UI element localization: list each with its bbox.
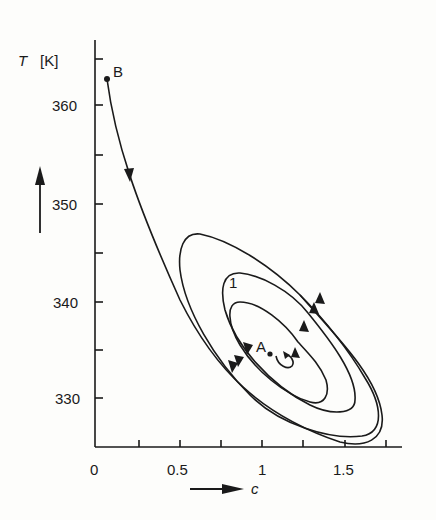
spiral-arrow-icon [283, 351, 290, 359]
y-tick-label: 330 [55, 390, 80, 407]
x-direction-arrow-icon [190, 484, 244, 494]
y-axis-unit: [K] [40, 52, 58, 69]
x-axis-label: c [251, 480, 259, 497]
point-b-label: B [113, 63, 123, 80]
y-ticks [95, 59, 103, 398]
direction-arrows [124, 168, 325, 373]
y-tick-label: 340 [53, 294, 78, 311]
x-tick-label: 0.5 [167, 461, 188, 478]
point-a-marker [267, 351, 272, 356]
point-b-marker [104, 76, 110, 82]
y-tick-label: 360 [52, 97, 77, 114]
y-axis-symbol: T [18, 52, 29, 69]
orbit-1 [180, 234, 379, 437]
phase-plane-chart: 360 350 340 330 0 0.5 1 1.5 T [K] c [0, 0, 436, 520]
point-a-label: A [256, 338, 266, 355]
x-tick-label: 1.5 [333, 461, 354, 478]
y-tick-label: 350 [52, 196, 77, 213]
y-direction-arrow-icon [35, 166, 45, 233]
x-tick-label: 0 [90, 461, 98, 478]
orbit-middle [223, 273, 355, 412]
orbit-1-label: 1 [229, 274, 237, 291]
x-tick-label: 1 [258, 461, 266, 478]
